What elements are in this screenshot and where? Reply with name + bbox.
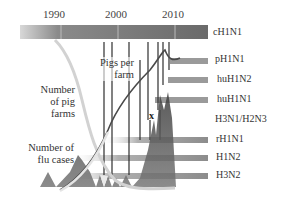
strain-label-huh1n1: huH1N1 [217,93,251,104]
strain-label-huh1n2: huH1N2 [217,73,251,84]
strain-label-ph1n1: pH1N1 [215,53,244,64]
strain-label-h3n2: H3N2 [216,169,240,180]
year-label-2000: 2000 [105,8,127,20]
strain-label-rh1n1: rH1N1 [216,133,244,144]
number-of-flu-cases-label: Number of flu cases [10,142,74,166]
number-of-pig-farms-label: Number of pig farms [24,84,75,120]
strain-label-ch1n1: cH1N1 [213,26,242,37]
pigs-per-farm-label: Pigs per farm [92,57,134,81]
year-label-1990: 1990 [43,8,65,20]
reassortment-marker-icon: x [149,110,154,121]
strain-label-h1n2: H1N2 [216,151,240,162]
timeline-bar [20,25,208,39]
strain-label-h3n1-h2n3: H3N1/H2N3 [215,113,267,124]
year-label-2010: 2010 [162,8,184,20]
